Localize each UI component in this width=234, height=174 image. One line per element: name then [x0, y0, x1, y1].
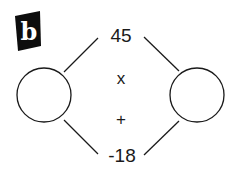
connector-line-top-left: [64, 38, 98, 72]
connector-line-bottom-right: [144, 121, 179, 155]
multiply-operator: x: [117, 69, 126, 88]
left-answer-circle[interactable]: [17, 68, 71, 122]
panel-label-badge: b: [15, 11, 41, 51]
connector-line-top-right: [144, 37, 179, 71]
connector-line-bottom-left: [64, 120, 98, 154]
right-answer-circle[interactable]: [170, 68, 224, 122]
diamond-problem-diagram: b 45 x + -18: [0, 0, 234, 174]
top-product-value: 45: [110, 25, 131, 46]
panel-label: b: [21, 17, 38, 46]
add-operator: +: [116, 110, 126, 129]
bottom-sum-value: -18: [108, 145, 135, 166]
